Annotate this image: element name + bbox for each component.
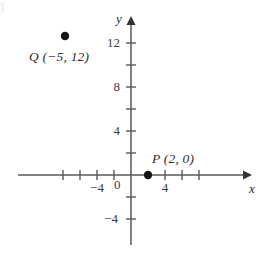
y-tick-label-neg4: −4 [92,212,118,225]
point-label-q: Q (−5, 12) [29,50,89,64]
x-axis-arrowhead [243,171,252,180]
y-tick-label-4: 4 [94,124,120,137]
y-axis-label: y [116,12,122,25]
x-axis-label: x [249,182,255,195]
point-dot-p [144,171,152,179]
point-label-p: P (2, 0) [152,152,194,166]
y-axis-arrowhead [127,16,136,25]
origin-label: 0 [114,178,121,191]
x-tick-label-neg4: −4 [84,181,110,194]
coordinate-plane-figure: y x 0 −4 4 12 8 4 −4 Q (−5, 12) P (2, 0) [0,0,267,263]
y-tick-label-8: 8 [94,80,120,93]
point-dot-q [61,32,69,40]
x-tick-label-4: 4 [152,181,178,194]
plot-canvas [0,0,267,263]
y-tick-label-12: 12 [94,36,120,49]
